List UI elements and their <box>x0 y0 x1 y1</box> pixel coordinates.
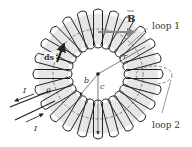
b-label: b <box>84 76 89 85</box>
loop-2-label: loop 2 <box>152 120 180 130</box>
toroid-diagram: B loop 1 loop 2 ds θ r b c I I <box>0 0 192 147</box>
loop-1-label: loop 1 <box>152 21 180 31</box>
loop-2-leader <box>162 80 171 113</box>
current-label-bottom: I <box>33 124 38 133</box>
ds-label: ds <box>44 52 55 62</box>
c-label: c <box>100 82 105 91</box>
current-label-top: I <box>22 86 27 95</box>
current-arrow-bottom <box>26 114 43 122</box>
b-field-label: B <box>127 13 135 24</box>
current-arrow-top <box>15 94 34 101</box>
lead-wire-bottom <box>15 101 55 120</box>
